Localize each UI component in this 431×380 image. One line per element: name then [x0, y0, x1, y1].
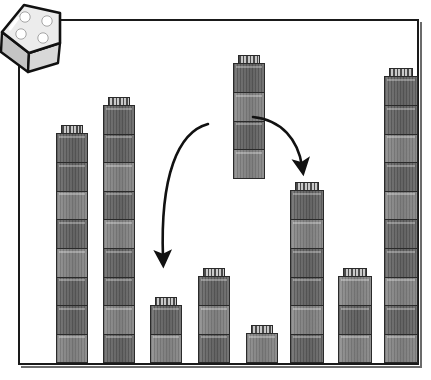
- tower-5[interactable]: [246, 325, 278, 362]
- block[interactable]: [103, 276, 135, 306]
- tower-8[interactable]: [384, 68, 418, 362]
- block[interactable]: [103, 105, 135, 135]
- block[interactable]: [384, 219, 418, 249]
- block[interactable]: [56, 305, 88, 335]
- block[interactable]: [56, 276, 88, 306]
- block[interactable]: [150, 333, 182, 363]
- block[interactable]: [56, 248, 88, 278]
- block[interactable]: [384, 76, 418, 106]
- block[interactable]: [290, 190, 324, 220]
- block[interactable]: [150, 305, 182, 335]
- die-pip: [20, 12, 30, 22]
- block[interactable]: [384, 105, 418, 135]
- block[interactable]: [290, 248, 324, 278]
- block[interactable]: [103, 305, 135, 335]
- tower-1[interactable]: [56, 125, 88, 362]
- scene-canvas: [0, 0, 431, 380]
- block[interactable]: [290, 333, 324, 363]
- tower-2[interactable]: [103, 97, 135, 362]
- block[interactable]: [56, 162, 88, 192]
- block[interactable]: [56, 219, 88, 249]
- block[interactable]: [290, 219, 324, 249]
- block-stud: [61, 125, 83, 133]
- block[interactable]: [233, 149, 265, 179]
- block[interactable]: [198, 305, 230, 335]
- block[interactable]: [56, 133, 88, 163]
- block[interactable]: [233, 63, 265, 93]
- tower-4[interactable]: [198, 268, 230, 362]
- block[interactable]: [384, 190, 418, 220]
- block[interactable]: [103, 219, 135, 249]
- tower-6[interactable]: [290, 182, 324, 362]
- block[interactable]: [103, 162, 135, 192]
- die-pip: [38, 33, 48, 43]
- block[interactable]: [103, 133, 135, 163]
- block[interactable]: [384, 133, 418, 163]
- block[interactable]: [290, 276, 324, 306]
- block[interactable]: [233, 92, 265, 122]
- block[interactable]: [233, 120, 265, 150]
- block[interactable]: [338, 305, 372, 335]
- block[interactable]: [290, 305, 324, 335]
- block[interactable]: [103, 190, 135, 220]
- block-stud: [343, 268, 366, 276]
- block[interactable]: [103, 333, 135, 363]
- block-stud: [108, 97, 130, 105]
- block[interactable]: [384, 276, 418, 306]
- block[interactable]: [338, 333, 372, 363]
- block[interactable]: [56, 190, 88, 220]
- die-pip: [42, 16, 52, 26]
- block[interactable]: [56, 333, 88, 363]
- block[interactable]: [338, 276, 372, 306]
- block-stud: [238, 55, 260, 63]
- block-stud: [203, 268, 225, 276]
- block[interactable]: [384, 333, 418, 363]
- block-stud: [251, 325, 273, 333]
- block-stud: [155, 297, 177, 305]
- block[interactable]: [246, 333, 278, 363]
- floating-tower[interactable]: [233, 55, 265, 177]
- die-pip: [16, 29, 26, 39]
- block[interactable]: [384, 162, 418, 192]
- block[interactable]: [198, 276, 230, 306]
- block[interactable]: [384, 248, 418, 278]
- block-stud: [295, 182, 318, 190]
- tower-7[interactable]: [338, 268, 372, 362]
- block-stud: [389, 68, 412, 76]
- block[interactable]: [103, 248, 135, 278]
- tower-3[interactable]: [150, 297, 182, 362]
- block[interactable]: [198, 333, 230, 363]
- die[interactable]: [0, 0, 84, 82]
- block[interactable]: [384, 305, 418, 335]
